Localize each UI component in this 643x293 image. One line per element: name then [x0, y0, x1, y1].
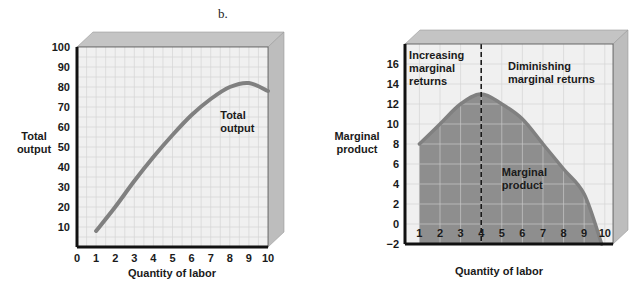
x-tick-label: 6: [189, 252, 195, 264]
y-tick-label: 10: [387, 118, 399, 130]
x-tick-label: 5: [169, 252, 175, 264]
y-axis-label: Marginalproduct: [334, 130, 379, 155]
x-tick-label: 9: [246, 252, 252, 264]
y-tick-label: 6: [393, 158, 399, 170]
y-tick-label: 14: [387, 78, 400, 90]
x-tick-label: 1: [416, 227, 422, 239]
x-tick-label: 9: [581, 227, 587, 239]
x-tick-label: 3: [131, 252, 137, 264]
annotation-line: Marginal: [502, 166, 547, 178]
box-top-face: [77, 32, 284, 47]
y-tick-label: 50: [58, 141, 70, 153]
y-tick-label: 30: [58, 181, 70, 193]
x-axis-label: Quantity of labor: [128, 267, 217, 279]
y-tick-label: 90: [58, 61, 70, 73]
panel-label: b.: [218, 6, 228, 21]
x-tick-label: 3: [458, 227, 464, 239]
y-axis-label-line: Marginal: [334, 130, 379, 142]
x-tick-label: 7: [540, 227, 546, 239]
x-tick-label: 2: [437, 227, 443, 239]
box-side-face: [268, 32, 284, 247]
annotation-line: returns: [409, 75, 447, 87]
y-tick-label: 60: [58, 121, 70, 133]
annotation-line: output: [220, 122, 255, 134]
annotation-line: marginal returns: [508, 73, 595, 85]
annotation-line: product: [502, 179, 543, 191]
y-tick-label: 4: [393, 178, 400, 190]
y-tick-label: 70: [58, 101, 70, 113]
x-tick-label: 10: [599, 227, 611, 239]
annotation-line: Total: [220, 109, 245, 121]
x-tick-label: 7: [208, 252, 214, 264]
y-tick-label: 80: [58, 81, 70, 93]
x-tick-label: 8: [561, 227, 567, 239]
x-tick-label: 4: [150, 252, 157, 264]
x-tick-label: 5: [499, 227, 505, 239]
y-tick-label: 2: [393, 198, 399, 210]
y-tick-label: 20: [58, 201, 70, 213]
y-tick-label: 100: [52, 41, 70, 53]
box-top-face: [405, 30, 628, 44]
x-tick-label: 6: [519, 227, 525, 239]
x-tick-label: 4: [478, 227, 485, 239]
y-tick-label: 10: [58, 221, 70, 233]
y-tick-label: 12: [387, 98, 399, 110]
x-tick-label: 0: [74, 252, 80, 264]
x-tick-label: 8: [227, 252, 233, 264]
x-tick-label: 2: [112, 252, 118, 264]
x-tick-label: 1: [93, 252, 99, 264]
y-tick-label: 40: [58, 161, 70, 173]
y-axis-label-line: product: [337, 143, 378, 155]
box-side-face: [613, 30, 628, 244]
y-tick-label: 0: [393, 218, 399, 230]
y-axis-label-line: Total: [21, 130, 46, 142]
y-tick-label: −2: [386, 238, 399, 250]
annotation-line: marginal: [409, 62, 455, 74]
chart-figure: b. 012345678910102030405060708090100Quan…: [0, 0, 643, 293]
annotation-line: Diminishing: [508, 60, 571, 72]
marginal-product-label: Marginalproduct: [502, 166, 547, 191]
y-axis-label-line: output: [17, 143, 52, 155]
y-axis-label: Totaloutput: [17, 130, 52, 155]
y-tick-label: 8: [393, 138, 399, 150]
marginal-product-chart: 123456789101614121086420−2Quantity of la…: [334, 30, 628, 277]
total-output-chart: 012345678910102030405060708090100Quantit…: [17, 32, 284, 279]
x-axis-label: Quantity of labor: [455, 265, 544, 277]
annotation-line: Increasing: [409, 49, 464, 61]
x-tick-label: 10: [262, 252, 274, 264]
y-tick-label: 16: [387, 58, 399, 70]
